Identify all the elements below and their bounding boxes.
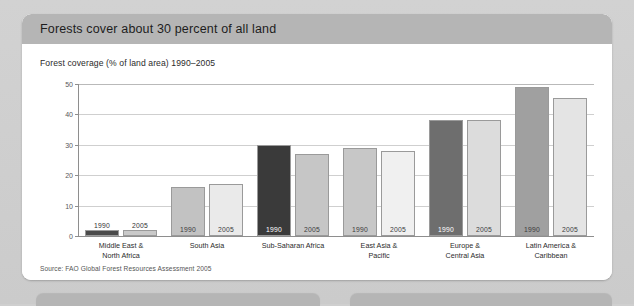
card-header: Forests cover about 30 percent of all la… [22, 14, 612, 44]
bar-group: 19902005 [164, 84, 250, 236]
bar-2005[interactable]: 2005 [381, 151, 415, 236]
x-axis-category-label: Latin America & Caribbean [508, 241, 594, 260]
bar-group: 19902005 [336, 84, 422, 236]
bar-1990[interactable]: 1990 [171, 187, 205, 236]
bar-year-label: 1990 [172, 226, 204, 233]
x-axis-category-label: Europe & Central Asia [422, 241, 508, 260]
bar-1990[interactable]: 1990 [257, 145, 291, 236]
bar-2005[interactable]: 2005 [467, 120, 501, 236]
y-axis-tick-label: 0 [69, 233, 73, 240]
x-axis-category-label: South Asia [164, 241, 250, 251]
page-title: Forests cover about 30 percent of all la… [40, 22, 276, 36]
x-axis-category-label: Middle East & North Africa [78, 241, 164, 260]
y-axis-tick-label: 20 [65, 172, 73, 179]
bar-2005[interactable]: 2005 [209, 184, 243, 236]
bar-group: 19902005 [508, 84, 594, 236]
bar-1990[interactable]: 1990 [429, 120, 463, 236]
bar-groups: 1990200519902005199020051990200519902005… [78, 84, 594, 236]
x-axis-category-label: East Asia & Pacific [336, 241, 422, 260]
bar-year-label: 2005 [210, 226, 242, 233]
next-card-stub-left [36, 294, 320, 306]
bar-year-label: 2005 [382, 226, 414, 233]
bar-year-label: 2005 [468, 226, 500, 233]
bar-2005[interactable]: 2005 [553, 98, 587, 236]
bar-group: 19902005 [78, 84, 164, 236]
bar-1990[interactable]: 1990 [343, 148, 377, 236]
bar-year-label: 1990 [258, 226, 290, 233]
bar-2005[interactable]: 2005 [123, 230, 157, 236]
bar-chart-plot: 01020304050 1990200519902005199020051990… [78, 84, 594, 280]
x-axis-category-label: Sub-Saharan Africa [250, 241, 336, 251]
y-axis-tick-mark [75, 236, 78, 237]
chart-subtitle: Forest coverage (% of land area) 1990–20… [40, 58, 215, 68]
bar-group: 19902005 [422, 84, 508, 236]
chart-card: Forests cover about 30 percent of all la… [22, 14, 612, 280]
bar-year-label: 1990 [344, 226, 376, 233]
bar-group: 19902005 [250, 84, 336, 236]
source-note: Source: FAO Global Forest Resources Asse… [40, 265, 212, 272]
bar-year-label: 2005 [124, 222, 156, 229]
bar-year-label: 1990 [516, 226, 548, 233]
x-axis-line [78, 236, 594, 237]
bar-year-label: 1990 [430, 226, 462, 233]
bar-year-label: 2005 [296, 226, 328, 233]
bar-2005[interactable]: 2005 [295, 154, 329, 236]
bar-year-label: 2005 [554, 226, 586, 233]
y-axis-tick-label: 50 [65, 81, 73, 88]
y-axis-tick-label: 30 [65, 141, 73, 148]
bar-1990[interactable]: 1990 [515, 87, 549, 236]
next-card-stub-right [350, 294, 612, 306]
y-axis-tick-label: 10 [65, 202, 73, 209]
card-body: Forest coverage (% of land area) 1990–20… [22, 44, 612, 280]
bar-year-label: 1990 [86, 222, 118, 229]
bar-1990[interactable]: 1990 [85, 230, 119, 236]
y-axis-tick-label: 40 [65, 111, 73, 118]
